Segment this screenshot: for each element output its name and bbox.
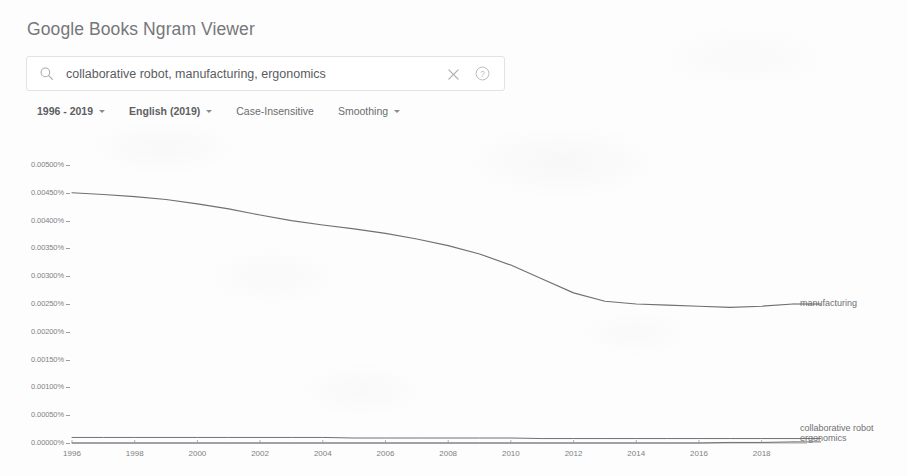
series-line[interactable] [72, 437, 793, 438]
series-line[interactable] [72, 193, 793, 308]
plot-area [0, 0, 907, 476]
series-label: manufacturing [800, 298, 857, 308]
series-line[interactable] [72, 442, 793, 443]
series-label: collaborative robot [800, 423, 874, 433]
series-label: ergonomics [800, 433, 847, 443]
ngram-chart: 0.00500%0.00450%0.00400%0.00350%0.00300%… [0, 0, 907, 476]
